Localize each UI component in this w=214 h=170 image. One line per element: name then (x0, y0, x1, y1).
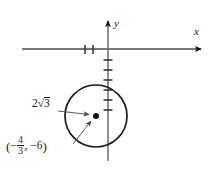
close-paren: ) (43, 140, 47, 153)
y-axis (104, 21, 113, 161)
center-leader-arrow (73, 121, 91, 144)
y-axis-label: y (113, 17, 119, 29)
radical-overbar (44, 97, 50, 98)
fraction-numerator: 4 (17, 136, 24, 145)
x-fraction: 4 3 (17, 136, 24, 156)
figure-canvas: x y 2√3 (− 4 3 , −6) (0, 0, 214, 170)
radius-label: 2√3 (32, 97, 50, 110)
center-coordinate-label: (− 4 3 , −6) (6, 136, 47, 156)
fraction-denominator: 3 (17, 147, 24, 156)
square-root-group: √3 (38, 97, 50, 110)
x-axis-label: x (193, 25, 199, 37)
x-axis (22, 45, 201, 54)
radius-leader-arrow (58, 111, 89, 115)
circle-center-dot (93, 113, 99, 119)
radicand-value: 3 (44, 97, 50, 109)
x-sign: − (10, 140, 17, 152)
